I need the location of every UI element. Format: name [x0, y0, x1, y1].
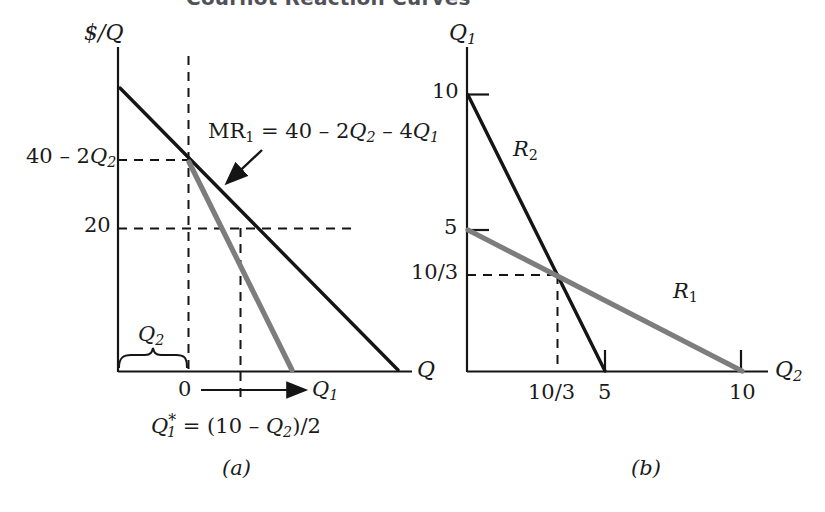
panel-a-y-tick-label-40-2q2: 40 – 2Q2 — [26, 146, 116, 170]
panel-a-origin-label: 0 — [178, 379, 191, 400]
panel-a-y-axis-label: $/Q — [84, 22, 123, 44]
panel-b-y-tick-label-5: 5 — [444, 217, 457, 238]
panel-b-y-tick-label-10-3: 10/3 — [411, 262, 458, 283]
panel-b-axes — [467, 47, 768, 372]
panel-a-x-axis-label: Q — [417, 359, 435, 381]
panel-b-curve-label-r2: R2 — [513, 139, 538, 163]
panel-b-x-axis-label: Q2 — [775, 359, 803, 384]
panel-a-mr-pointer-arrow — [228, 150, 262, 182]
panel-b-r1-curve — [468, 230, 742, 371]
panel-a-brace-label-q2: Q2 — [138, 324, 164, 348]
panel-b-y-axis-label: Q1 — [449, 22, 477, 47]
panel-a-mr-annotation: MR1 = 40 – 2Q2 – 4Q1 — [208, 121, 439, 145]
figure-graphics — [0, 0, 825, 512]
panel-a-inner-x-axis-label-q1: Q1 — [312, 379, 338, 403]
panel-b-curve-label-r1: R1 — [673, 281, 698, 305]
cournot-reaction-curves-figure: Cournot Reaction Curves — [0, 0, 825, 512]
panel-b-dashed-guides — [467, 275, 558, 371]
panel-a-marginal-revenue-curve — [189, 162, 292, 370]
panel-b-ticks — [467, 95, 741, 373]
panel-b-x-tick-label-10: 10 — [729, 382, 756, 403]
panel-b-x-tick-label-10-3: 10/3 — [528, 382, 575, 403]
panel-a-q2-brace — [119, 348, 187, 368]
panel-a-y-tick-label-20: 20 — [84, 215, 111, 236]
panel-b-caption: (b) — [631, 458, 661, 479]
panel-a-optimum-equation: Q*1 = (10 – Q2)/2 — [151, 413, 321, 439]
panel-a-caption: (a) — [222, 458, 251, 479]
panel-b-r2-curve — [468, 95, 605, 371]
panel-b-x-tick-label-5: 5 — [598, 382, 611, 403]
panel-b-y-tick-label-10: 10 — [432, 81, 459, 102]
